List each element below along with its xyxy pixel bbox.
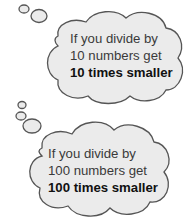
cloud-2-line-1: If you divide by xyxy=(48,145,158,162)
thought-bubble-small xyxy=(19,5,29,13)
cloud-1-line-1: If you divide by xyxy=(70,30,173,47)
cloud-2-line-2: 100 numbers get xyxy=(48,162,158,179)
thought-bubble-medium xyxy=(31,10,47,23)
thought-bubble-medium xyxy=(23,119,41,133)
cloud-1-text: If you divide by 10 numbers get 10 times… xyxy=(70,30,173,81)
cloud-2-line-3: 100 times smaller xyxy=(48,179,158,196)
thought-bubble-small xyxy=(16,112,26,120)
cloud-2-text: If you divide by 100 numbers get 100 tim… xyxy=(48,145,158,196)
cloud-1-line-2: 10 numbers get xyxy=(70,47,173,64)
cloud-1-line-3: 10 times smaller xyxy=(70,64,173,81)
thought-bubble-tiny xyxy=(18,102,26,109)
